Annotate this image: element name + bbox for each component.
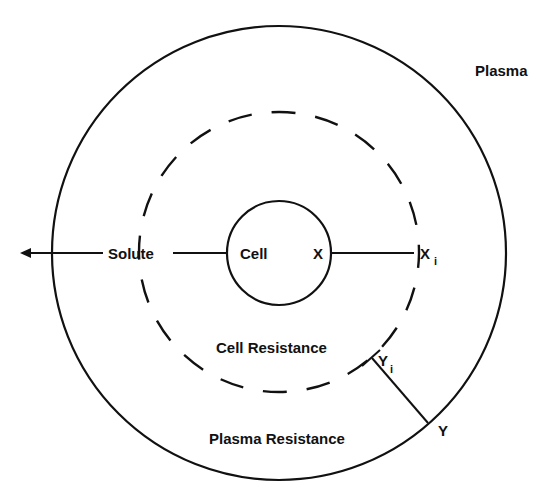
x-label: X (313, 245, 323, 262)
plasma-resistance-label: Plasma Resistance (209, 430, 345, 447)
xi-subscript: i (434, 255, 437, 267)
yi-subscript: i (390, 363, 393, 375)
y-label: Y (438, 422, 448, 439)
arrow-left-icon (20, 248, 31, 258)
xi-label: X (420, 245, 430, 262)
solute-transport-diagram: Plasma Solute Cell X X i Cell Resistance… (0, 0, 558, 494)
yi-label: Y (378, 352, 388, 369)
cell-label: Cell (240, 245, 268, 262)
solute-label: Solute (108, 245, 154, 262)
cell-resistance-label: Cell Resistance (216, 339, 327, 356)
plasma-label: Plasma (475, 62, 528, 79)
